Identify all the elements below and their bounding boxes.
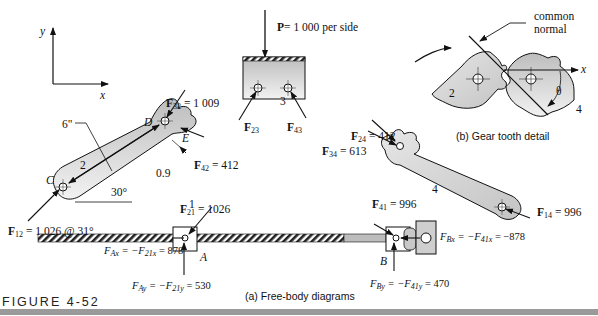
- offset-dimension-label: 0.9: [156, 168, 170, 180]
- force-fby-equation: FBy = −F41y = 470: [370, 279, 449, 291]
- force-fax-equation: FAx = −F21x = 878: [104, 246, 183, 258]
- force-f24-label: F24 = 412: [351, 131, 396, 144]
- force-f23-label: F23: [244, 122, 259, 135]
- point-d-label: D: [144, 117, 152, 129]
- force-f43-label: F43: [287, 122, 302, 135]
- gear-4-number: 4: [576, 104, 582, 116]
- point-a-label: A: [200, 252, 207, 264]
- gear-2-number: 2: [449, 88, 455, 100]
- force-fbx-equation: FBx = −F41x = −878: [440, 232, 525, 244]
- force-f12-label: F12 = 1 026 @ 31°: [8, 226, 94, 239]
- point-c-label: C: [46, 175, 54, 187]
- load-p-label: P= 1 000 per side: [277, 22, 358, 34]
- force-f14-label: F14 = 996: [537, 207, 582, 220]
- x-axis-label: x: [100, 90, 105, 102]
- gear-x-axis-label: x: [581, 64, 586, 76]
- gear-tooth-detail: [415, 23, 578, 116]
- figure-number: FIGURE 4-52: [2, 295, 100, 309]
- force-fay-equation: FAy = −F21y = 530: [132, 281, 211, 293]
- force-f32-label: F32 = 1 009: [166, 98, 219, 111]
- force-f41-label: F41 = 996: [372, 199, 417, 212]
- common-normal-label-line1: common: [534, 11, 574, 23]
- link-3-number: 3: [280, 96, 286, 108]
- y-axis-label: y: [40, 26, 45, 38]
- force-f21-label: F21 = 1026: [180, 204, 230, 217]
- common-normal-label-line2: normal: [534, 24, 567, 36]
- link-2-number: 2: [80, 160, 86, 172]
- caption-gear-tooth-detail: (b) Gear tooth detail: [456, 131, 549, 142]
- link-4-number: 4: [432, 184, 438, 196]
- point-b-label: B: [380, 256, 387, 268]
- point-e-label: E: [182, 133, 189, 145]
- length-dimension-label: 6": [62, 119, 72, 131]
- figure-bottom-rule: [0, 309, 598, 315]
- angle-30-label: 30°: [111, 187, 127, 199]
- link-1-ground: [38, 207, 436, 275]
- coordinate-axes: [53, 28, 108, 84]
- diagram-canvas: [0, 0, 598, 316]
- force-f42-label: F42 = 412: [194, 160, 239, 173]
- force-f34-label: F34 = 613: [322, 146, 367, 159]
- caption-free-body-diagrams: (a) Free-body diagrams: [245, 291, 355, 302]
- theta-angle-label: θ: [556, 86, 562, 98]
